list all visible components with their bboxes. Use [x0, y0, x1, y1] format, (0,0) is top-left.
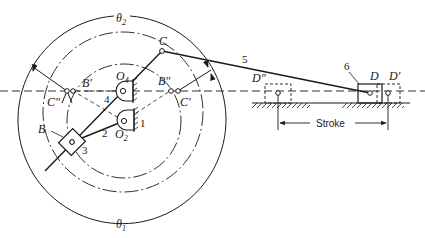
joint-d — [368, 91, 373, 96]
label-b-double-prime: B″ — [158, 74, 171, 88]
label-theta-2: θ2 — [116, 11, 126, 27]
label-b: B — [38, 122, 46, 136]
label-o4: O4 — [116, 69, 129, 85]
label-c: C — [159, 34, 168, 48]
label-c-double-prime: C″ — [47, 95, 61, 109]
joint-d-prime — [386, 91, 391, 96]
angle-arrow-right-b — [211, 74, 213, 80]
label-d: D — [369, 69, 379, 83]
label-link-2: 2 — [102, 127, 108, 139]
label-theta-1: θ1 — [116, 217, 126, 233]
theta-boundary-left — [33, 67, 67, 91]
ground-rail — [252, 103, 410, 108]
label-stroke: Stroke — [316, 118, 345, 129]
theta-boundary-right — [178, 70, 211, 91]
label-link-6: 6 — [344, 60, 350, 72]
label-leader-6 — [349, 72, 359, 84]
joint-c — [160, 49, 165, 54]
label-d-double-prime: D″ — [251, 71, 267, 85]
label-b-prime: B′ — [82, 76, 92, 90]
link-4-rocker — [45, 51, 162, 171]
label-c-prime: C′ — [180, 95, 191, 109]
label-d-prime: D′ — [388, 69, 401, 83]
label-link-4: 4 — [104, 93, 110, 105]
label-link-1: 1 — [140, 117, 146, 129]
link-5-connecting-rod — [162, 51, 370, 93]
label-leader-b — [51, 131, 63, 137]
label-link-3: 3 — [82, 144, 88, 156]
label-link-5: 5 — [242, 53, 248, 65]
joint-d-double-prime — [276, 91, 281, 96]
mechanism-diagram: θ2 θ1 C C″ C′ B′ B″ B O4 O2 D D′ D″ 1 2 … — [0, 0, 425, 238]
angle-arrow-right-a — [206, 62, 208, 67]
